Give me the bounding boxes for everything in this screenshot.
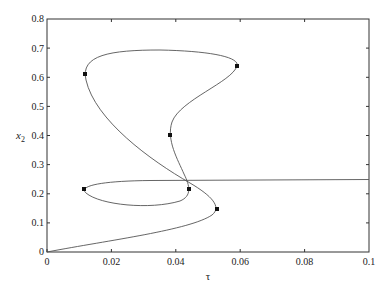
chart: 0 0.02 0.04 0.06 0.08 0.1 τ 0 0.1 0.2 0.… — [0, 0, 386, 288]
y-axis — [47, 48, 369, 223]
x-axis — [47, 19, 305, 252]
marker — [235, 64, 239, 68]
x-tick-label: 0.06 — [231, 256, 249, 267]
x-tick-label: 0.04 — [167, 256, 185, 267]
markers — [82, 64, 239, 211]
y-tick-label: 0.4 — [32, 130, 45, 141]
y-tick-label: 0.2 — [32, 188, 45, 199]
y-axis-label: x2 — [15, 129, 25, 144]
y-tick-label: 0.6 — [32, 72, 45, 83]
y-tick-label: 0 — [39, 246, 44, 257]
y-tick-label: 0.5 — [32, 101, 45, 112]
bifurcation-curve — [47, 50, 369, 252]
y-tick-labels: 0 0.1 0.2 0.3 0.4 0.5 0.6 0.7 0.8 — [32, 13, 45, 257]
x-axis-label: τ — [206, 270, 211, 282]
marker — [82, 187, 86, 191]
marker — [83, 72, 87, 76]
marker — [187, 187, 191, 191]
y-tick-label: 0.7 — [32, 43, 45, 54]
x-tick-label: 0 — [45, 256, 50, 267]
y-tick-label: 0.1 — [32, 217, 45, 228]
x-tick-label: 0.08 — [296, 256, 314, 267]
marker — [168, 133, 172, 137]
x-tick-label: 0.02 — [103, 256, 121, 267]
x-tick-label: 0.1 — [363, 256, 376, 267]
marker — [215, 207, 219, 211]
y-tick-label: 0.3 — [32, 159, 45, 170]
y-tick-label: 0.8 — [32, 13, 45, 24]
x-tick-labels: 0 0.02 0.04 0.06 0.08 0.1 — [45, 256, 376, 267]
